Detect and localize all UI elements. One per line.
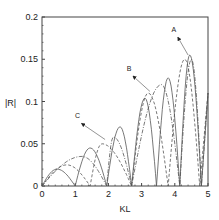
y-tick-label: 0.15: [20, 54, 38, 64]
x-axis-label: KL: [119, 204, 130, 214]
curve-a: [42, 55, 208, 186]
curves: [42, 55, 208, 186]
x-tick-label: 1: [73, 189, 78, 199]
y-axis-label: |R|: [5, 98, 16, 108]
arrow-b: [133, 76, 150, 91]
y-tick-label: 0.2: [25, 12, 38, 22]
y-tick-label: 0.05: [20, 139, 38, 149]
label-c: C: [75, 112, 80, 119]
label-b: B: [127, 65, 132, 72]
arrow-a: [178, 37, 188, 55]
annotations: ABC: [75, 26, 188, 139]
x-tick-label: 4: [172, 189, 177, 199]
y-tick-label: 0.1: [25, 97, 38, 107]
label-a: A: [171, 26, 176, 33]
x-tick-label: 0: [39, 189, 44, 199]
axes-frame: 01234500.050.10.150.2: [20, 12, 210, 199]
chart: 01234500.050.10.150.2 ABC KL |R|: [0, 0, 219, 220]
y-tick-label: 0: [33, 181, 38, 191]
x-tick-label: 5: [205, 189, 210, 199]
x-tick-label: 2: [106, 189, 111, 199]
arrow-c: [82, 123, 106, 139]
x-tick-label: 3: [139, 189, 144, 199]
